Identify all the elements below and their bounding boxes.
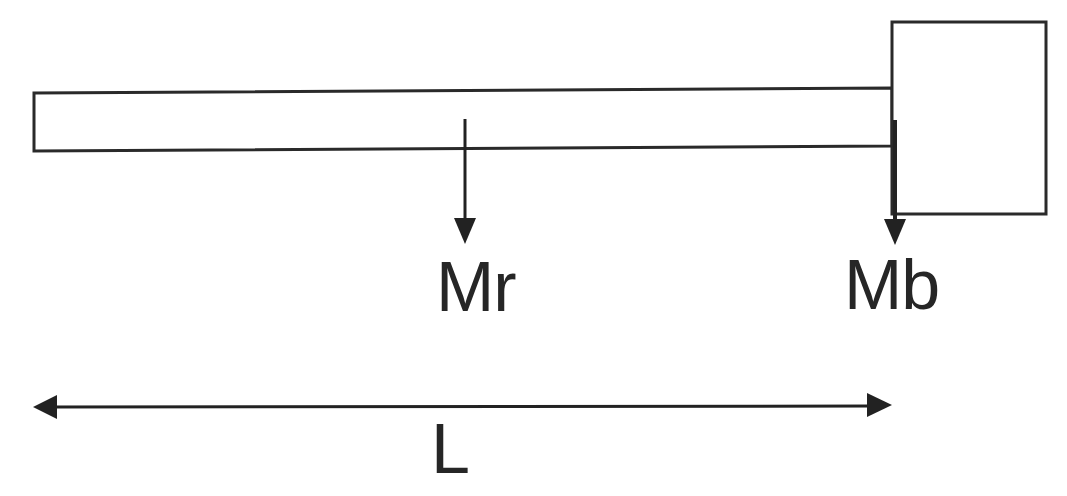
diagram-canvas: Mr Mb L	[0, 0, 1067, 496]
length-label: L	[431, 414, 469, 484]
arrowhead-down-icon	[454, 218, 476, 244]
arrowhead-down-icon	[884, 219, 906, 245]
arrowhead-right-icon	[867, 393, 892, 417]
arrowhead-left-icon	[33, 395, 57, 419]
block-mass-label: Mb	[844, 250, 939, 320]
block	[892, 22, 1046, 214]
rod	[34, 88, 892, 151]
rod-mass-label: Mr	[436, 252, 516, 322]
